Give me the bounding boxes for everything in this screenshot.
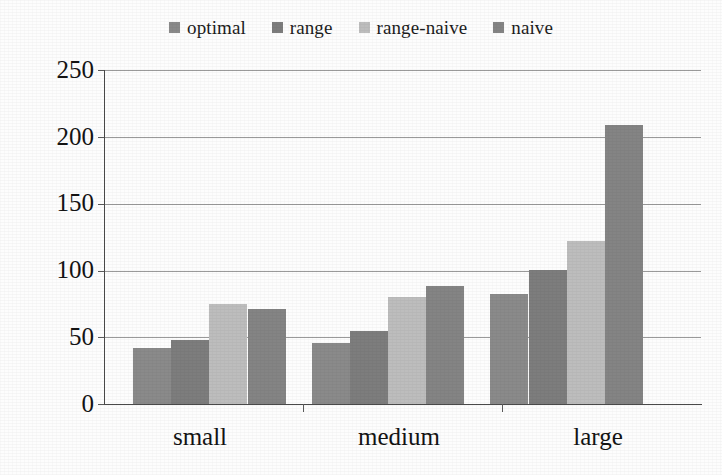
legend-item-range-naive: range-naive: [359, 18, 468, 37]
y-tick-label: 50: [24, 324, 94, 349]
x-axis-line: [104, 404, 702, 405]
bar-chart: optimal range range-naive naive 250 200 …: [0, 0, 722, 475]
legend-swatch-icon: [493, 22, 504, 33]
y-axis-labels: 250 200 150 100 50 0: [18, 0, 94, 475]
legend-label: range: [290, 18, 333, 37]
legend-swatch-icon: [359, 22, 370, 33]
x-category-label-small: small: [140, 423, 260, 451]
bar: [490, 294, 528, 404]
legend-label: range-naive: [377, 18, 468, 37]
legend-label: optimal: [187, 18, 246, 37]
x-category-label-large: large: [538, 423, 658, 451]
legend-swatch-icon: [169, 22, 180, 33]
bar: [248, 309, 286, 404]
bar: [171, 340, 209, 404]
legend-swatch-icon: [272, 22, 283, 33]
chart-legend: optimal range range-naive naive: [0, 18, 722, 37]
y-tick-label: 0: [24, 391, 94, 416]
legend-label: naive: [511, 18, 553, 37]
x-category-label-medium: medium: [339, 423, 459, 451]
bar: [133, 348, 171, 404]
bar: [388, 297, 426, 404]
x-axis-group-tick: [502, 404, 503, 412]
bar: [350, 331, 388, 404]
legend-item-optimal: optimal: [169, 18, 246, 37]
bar: [209, 304, 247, 404]
legend-item-naive: naive: [493, 18, 553, 37]
y-tick-label: 200: [24, 124, 94, 149]
x-axis-group-tick: [303, 404, 304, 412]
gridline: [105, 70, 701, 71]
y-tick-label: 150: [24, 190, 94, 215]
bar: [605, 125, 643, 404]
y-tick-label: 250: [24, 57, 94, 82]
y-tick-label: 100: [24, 257, 94, 282]
legend-item-range: range: [272, 18, 333, 37]
bar: [567, 241, 605, 404]
bar: [312, 343, 350, 404]
bar: [529, 270, 567, 404]
plot-area: [105, 70, 701, 404]
bar: [426, 286, 464, 404]
